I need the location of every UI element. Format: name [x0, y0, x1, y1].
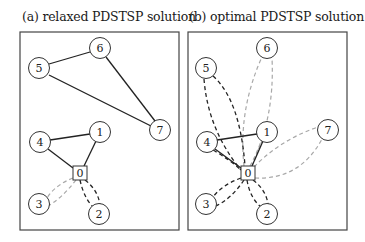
svg-text:5: 5: [203, 62, 210, 75]
edge-4-0: [48, 149, 73, 168]
svg-text:7: 7: [157, 124, 164, 137]
depot-node-0: 0: [241, 166, 255, 180]
edge-5-7: [49, 75, 151, 126]
depot-node-0: 0: [73, 166, 87, 180]
edge-0-3-out: [213, 178, 241, 197]
edge-0-2-back: [85, 180, 100, 205]
svg-text:4: 4: [37, 136, 44, 149]
svg-text:0: 0: [77, 167, 84, 180]
node-7: 7: [318, 120, 339, 141]
edge-1-0: [84, 141, 96, 166]
edge-0-4-drone: [213, 150, 241, 170]
diagram-canvas: 5 6 7 4 1 3 2 0: [0, 0, 365, 242]
svg-text:2: 2: [264, 208, 271, 221]
node-4: 4: [30, 132, 51, 153]
svg-text:1: 1: [97, 126, 104, 139]
edge-4-1: [217, 134, 257, 140]
node-1: 1: [90, 122, 111, 143]
node-1: 1: [257, 122, 278, 143]
panel-relaxed: 5 6 7 4 1 3 2 0: [20, 32, 179, 230]
edge-1-0: [252, 141, 263, 166]
svg-text:2: 2: [96, 208, 103, 221]
svg-text:4: 4: [204, 136, 211, 149]
edge-4-1: [50, 134, 90, 140]
node-3: 3: [196, 194, 217, 215]
node-4: 4: [197, 132, 218, 153]
node-2: 2: [89, 204, 110, 225]
node-6: 6: [90, 38, 111, 59]
edge-0-3-back: [48, 180, 76, 206]
edge-0-2-out: [80, 180, 93, 207]
node-5: 5: [29, 58, 50, 79]
svg-text:1: 1: [264, 126, 271, 139]
svg-text:5: 5: [36, 62, 43, 75]
edge-6-7: [106, 57, 155, 121]
panel-optimal: 5 6 7 4 1 3 2 0: [188, 32, 347, 230]
node-3: 3: [29, 194, 50, 215]
edge-0-3-back: [216, 180, 244, 206]
svg-text:6: 6: [264, 42, 271, 55]
edge-0-6-back: [250, 58, 272, 166]
node-6: 6: [257, 38, 278, 59]
node-5: 5: [196, 58, 217, 79]
svg-text:3: 3: [36, 198, 43, 211]
edge-0-2-out: [247, 180, 261, 207]
edge-5-6: [49, 52, 90, 64]
edge-0-5-out: [204, 79, 241, 170]
svg-text:7: 7: [325, 124, 332, 137]
node-7: 7: [150, 120, 171, 141]
edge-0-7-back: [255, 139, 322, 178]
node-2: 2: [257, 204, 278, 225]
svg-text:6: 6: [97, 42, 104, 55]
svg-text:3: 3: [203, 198, 210, 211]
svg-text:0: 0: [245, 167, 252, 180]
